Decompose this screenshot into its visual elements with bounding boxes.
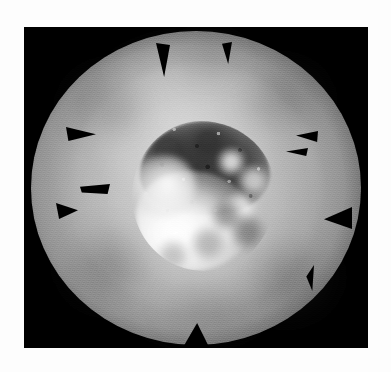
wedge-top-right <box>222 42 232 64</box>
wedge-right-upper <box>296 131 318 142</box>
wedge-left-mid <box>80 184 110 194</box>
disc-dark-patch-top <box>174 35 244 87</box>
wedge-left-lower <box>56 203 78 219</box>
wedge-right-lower <box>302 265 314 291</box>
wedge-bottom <box>182 323 210 348</box>
detector-plate <box>24 27 368 348</box>
luminous-disc <box>24 27 368 348</box>
wedge-top-left <box>156 43 170 77</box>
screenshot-canvas <box>0 0 391 372</box>
wedge-left-upper <box>66 127 96 141</box>
disc-dark-patch-bottom <box>156 277 266 339</box>
crater-lower-mottling <box>150 199 266 271</box>
central-crater <box>132 121 276 271</box>
wedge-right-mid <box>324 207 352 229</box>
wedge-right-upper-2 <box>286 147 308 156</box>
